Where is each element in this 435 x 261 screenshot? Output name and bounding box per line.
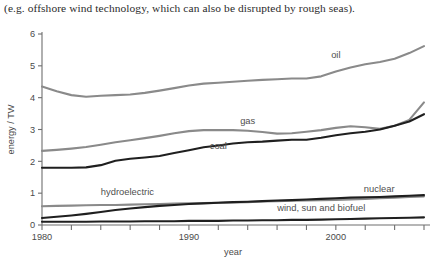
energy-line-chart: 0123456 198019902000 oilgascoalhydroelec… <box>0 24 435 261</box>
series-group <box>42 46 424 222</box>
series-line-wind <box>42 217 424 221</box>
x-tick-label: 1990 <box>179 232 199 242</box>
series-label-oil: oil <box>331 49 340 60</box>
series-label-hydroelectric: hydroelectric <box>101 186 154 197</box>
y-tick-label: 2 <box>30 157 35 167</box>
series-label-coal: coal <box>210 140 227 151</box>
y-axis-title: energy / TW <box>6 104 16 154</box>
series-label-nuclear: nuclear <box>364 183 395 194</box>
x-tick-group: 198019902000 <box>32 225 424 242</box>
x-tick-label: 1980 <box>32 232 52 242</box>
y-tick-label: 6 <box>30 29 35 39</box>
y-tick-label: 5 <box>30 61 35 71</box>
axes-group: 0123456 198019902000 <box>30 29 430 242</box>
y-tick-label: 0 <box>30 220 35 230</box>
x-axis-title: year <box>224 247 242 257</box>
series-label-wind: wind, sun and biofuel <box>276 202 365 213</box>
x-tick-label: 2000 <box>326 232 346 242</box>
series-label-gas: gas <box>240 115 255 126</box>
y-tick-label: 4 <box>30 93 35 103</box>
figure-caption: (e.g. offshore wind technology, which ca… <box>4 2 432 14</box>
y-tick-label: 1 <box>30 188 35 198</box>
y-tick-label: 3 <box>30 125 35 135</box>
chart-svg: 0123456 198019902000 oilgascoalhydroelec… <box>0 24 435 261</box>
series-line-coal <box>42 114 424 167</box>
series-line-oil <box>42 46 424 97</box>
y-tick-group: 0123456 <box>30 29 42 230</box>
